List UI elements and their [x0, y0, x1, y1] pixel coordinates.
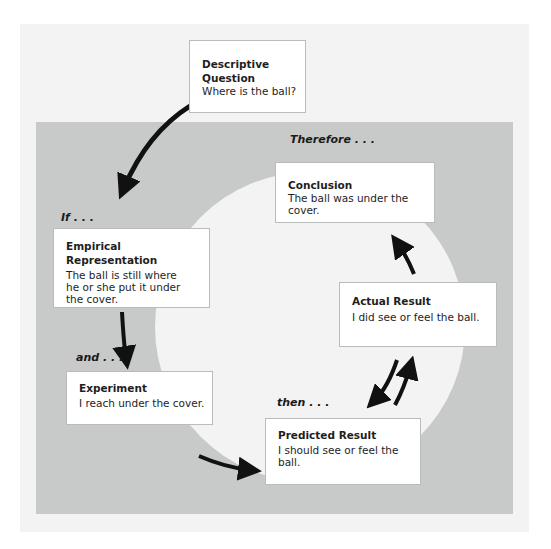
- box-body: I reach under the cover.: [79, 397, 212, 409]
- descriptive-question-box: Descriptive Question Where is the ball?: [189, 40, 306, 113]
- arrow-actual-to-conclusion: [398, 244, 414, 274]
- arrow-actual-to-predicted: [375, 360, 397, 400]
- arrow-question-to-representation: [124, 106, 190, 188]
- box-title: Descriptive Question: [202, 57, 305, 85]
- box-title: Experiment: [79, 381, 212, 395]
- box-title: Empirical Representation: [66, 239, 181, 267]
- then-label: then . . .: [277, 396, 329, 409]
- empirical-representation-box: Empirical Representation The ball is sti…: [53, 228, 210, 308]
- arrow-experiment-to-predicted: [199, 456, 250, 470]
- conclusion-box: Conclusion The ball was under the cover.: [275, 162, 435, 223]
- predicted-result-box: Predicted Result I should see or feel th…: [265, 418, 421, 485]
- if-label: If . . .: [61, 211, 94, 224]
- therefore-label: Therefore . . .: [290, 133, 375, 146]
- and-label: and . . .: [76, 351, 123, 364]
- box-body: The ball was under the cover.: [288, 192, 434, 216]
- box-title: Conclusion: [288, 178, 434, 192]
- experiment-box: Experiment I reach under the cover.: [66, 371, 213, 425]
- box-body: Where is the ball?: [202, 85, 305, 97]
- box-body: I did see or feel the ball.: [352, 311, 496, 323]
- box-body: The ball is still where he or she put it…: [66, 269, 181, 305]
- arrow-predicted-to-actual: [395, 367, 410, 405]
- box-title: Actual Result: [352, 294, 496, 308]
- box-body: I should see or feel the ball.: [278, 444, 420, 468]
- box-title: Predicted Result: [278, 428, 420, 442]
- actual-result-box: Actual Result I did see or feel the ball…: [339, 282, 497, 347]
